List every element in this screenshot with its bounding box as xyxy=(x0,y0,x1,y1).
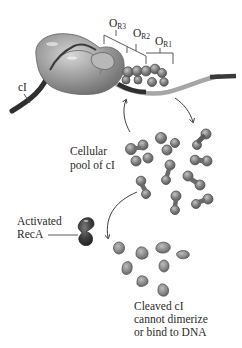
dimer-icon xyxy=(171,191,182,215)
bound-ci-dimers-icon xyxy=(122,64,168,86)
cleaved-ci-monomers xyxy=(114,242,190,296)
dimer-icon xyxy=(183,171,205,190)
dimer-icon xyxy=(136,176,150,198)
dimer-icon xyxy=(131,153,153,166)
dimer-icon xyxy=(190,155,212,166)
dimer-icon xyxy=(126,140,149,155)
label-pool-line1: Cellular xyxy=(70,145,107,157)
label-reca-line1: Activated xyxy=(17,215,62,227)
arrow-pool-to-operator xyxy=(124,100,130,132)
monomer-icon xyxy=(156,242,170,253)
monomer-icon xyxy=(122,262,132,275)
monomer-icon xyxy=(136,247,148,259)
arrow-operator-to-pool xyxy=(175,98,193,122)
label-ci-gene: cI xyxy=(18,81,27,93)
label-pool-line2: pool of cI xyxy=(70,159,115,172)
label-cleaved-line2: cannot dimerize xyxy=(134,313,208,325)
dimer-icon xyxy=(162,160,176,185)
rna-polymerase-icon xyxy=(36,34,124,95)
monomer-icon xyxy=(158,284,169,296)
monomer-icon xyxy=(177,251,190,259)
label-or1: OR1 xyxy=(155,35,172,49)
label-reca-line2: RecA xyxy=(17,228,44,240)
monomer-icon xyxy=(114,242,125,254)
label-cleaved-line3: or bind to DNA xyxy=(134,326,207,338)
monomer-icon xyxy=(137,276,148,287)
ci-dimer-pool xyxy=(126,129,214,215)
label-or3: OR3 xyxy=(109,17,126,31)
reca-icon xyxy=(78,218,94,246)
ci-reca-cleavage-diagram: OR3 OR2 OR1 cI Cellular pool of cI Activ… xyxy=(0,0,242,348)
dimer-icon xyxy=(192,194,214,209)
monomer-icon xyxy=(159,260,169,272)
label-or2: OR2 xyxy=(133,27,150,41)
label-cleaved-line1: Cleaved cI xyxy=(134,300,184,312)
dimer-icon xyxy=(193,129,212,150)
dimer-icon xyxy=(156,133,180,156)
arrow-pool-to-cleaved xyxy=(107,192,137,238)
